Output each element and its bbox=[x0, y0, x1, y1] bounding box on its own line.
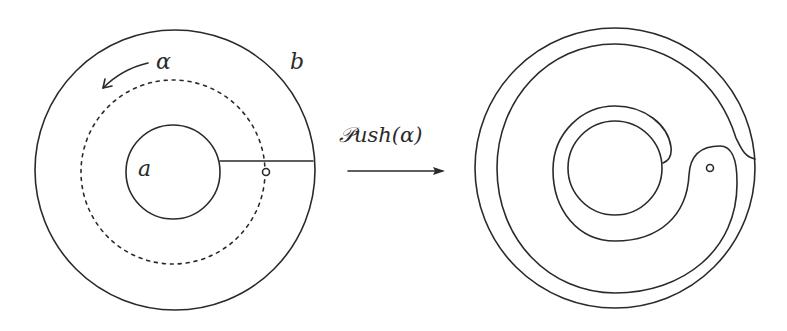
pushed-arc bbox=[497, 44, 755, 293]
inner-boundary-a-image bbox=[568, 121, 662, 215]
outer-boundary-b bbox=[35, 30, 315, 310]
loop-alpha-dashed bbox=[81, 80, 265, 264]
right-panel bbox=[475, 28, 755, 308]
push-map-diagram: α b a 𝒫ush(α) bbox=[0, 0, 787, 331]
label-a: a bbox=[138, 156, 151, 181]
alpha-direction-arrow bbox=[103, 63, 148, 88]
push-label: 𝒫ush(α) bbox=[339, 123, 422, 147]
operator: 𝒫ush(α) bbox=[339, 123, 445, 175]
left-panel: α b a bbox=[35, 30, 315, 310]
label-b: b bbox=[290, 49, 304, 74]
marked-point-image bbox=[707, 165, 714, 172]
push-rest: ush(α) bbox=[354, 123, 422, 147]
label-alpha: α bbox=[156, 49, 171, 74]
marked-point bbox=[263, 169, 270, 176]
